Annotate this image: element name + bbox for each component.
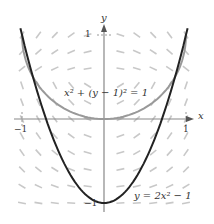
- slope-arrow: [21, 82, 24, 90]
- slope-arrow: [67, 185, 75, 187]
- x-axis-arrow-icon: [186, 116, 194, 122]
- slope-arrow: [36, 150, 41, 156]
- slope-arrow: [150, 167, 157, 171]
- slope-arrow: [52, 32, 58, 38]
- y-tick-label-neg1: −1: [84, 198, 97, 208]
- x-tick-label-pos1: 1: [183, 124, 189, 134]
- slope-arrow: [117, 68, 125, 69]
- slope-arrow: [84, 51, 92, 53]
- slope-arrow: [68, 33, 75, 38]
- slope-arrow: [117, 34, 125, 37]
- slope-arrow: [184, 149, 189, 156]
- slope-arrow: [117, 152, 125, 154]
- slope-arrow: [84, 134, 92, 137]
- slope-arrow: [51, 167, 58, 171]
- circle-equation-label: x² + (y − 1)² = 1: [64, 87, 148, 98]
- slope-arrow: [167, 133, 172, 140]
- slope-arrow: [150, 32, 156, 38]
- slope-arrow: [117, 100, 124, 104]
- x-tick-label-neg1: −1: [14, 124, 27, 134]
- parabola-equation-label: y = 2x² − 1: [134, 190, 192, 201]
- slope-arrow: [18, 202, 26, 204]
- slope-arrow: [35, 167, 41, 172]
- slope-arrow: [166, 202, 174, 203]
- slope-arrow: [134, 99, 140, 105]
- slope-arrow: [116, 186, 124, 187]
- slope-arrow: [35, 66, 42, 70]
- slope-arrow: [117, 51, 125, 53]
- slope-arrow: [134, 134, 140, 139]
- slope-arrow: [183, 184, 190, 188]
- slope-arrow: [36, 133, 41, 140]
- slope-arrow: [68, 134, 74, 139]
- slope-arrow: [19, 66, 25, 71]
- slope-arrow: [151, 82, 155, 89]
- slope-arrow: [149, 203, 157, 204]
- slope-arrow: [166, 185, 173, 188]
- slope-arrow: [68, 151, 75, 155]
- slope-arrow: [166, 66, 173, 70]
- slope-arrow: [52, 150, 58, 155]
- slope-arrow: [185, 99, 188, 106]
- slope-arrow: [35, 49, 41, 54]
- slope-arrow: [84, 186, 92, 187]
- slope-arrow: [51, 185, 59, 188]
- slope-arrow: [117, 134, 125, 137]
- slope-arrow: [117, 169, 125, 171]
- slope-arrow: [150, 50, 157, 54]
- slope-arrow: [35, 185, 42, 188]
- slope-arrow: [134, 33, 141, 38]
- slope-field-figure: y x 1 −1 1 −1 x² + (y − 1)² = 1 y = 2x² …: [0, 0, 214, 224]
- slope-arrow: [67, 203, 75, 204]
- y-tick-label-pos1: 1: [85, 29, 91, 39]
- slope-arrow: [185, 82, 188, 90]
- slope-arrow: [133, 185, 141, 187]
- slope-arrow: [167, 150, 172, 156]
- slope-arrow: [84, 100, 91, 104]
- slope-arrow: [20, 149, 25, 156]
- slope-arrow: [68, 99, 74, 105]
- slope-arrow: [149, 185, 157, 188]
- slope-arrow: [182, 202, 190, 204]
- slope-arrow: [133, 203, 141, 204]
- slope-arrow: [183, 66, 189, 71]
- slope-arrow: [21, 99, 24, 106]
- slope-arrow: [51, 203, 59, 204]
- slope-arrow: [84, 68, 92, 69]
- slope-arrow: [133, 151, 140, 155]
- slope-arrow: [167, 167, 173, 172]
- slope-arrow: [167, 32, 172, 38]
- slope-arrow: [53, 82, 57, 89]
- y-axis-arrow-icon: [101, 24, 107, 32]
- slope-arrow: [133, 50, 140, 53]
- slope-arrow: [67, 67, 75, 69]
- slope-arrow: [167, 49, 173, 54]
- y-axis-label: y: [101, 12, 107, 23]
- slope-arrow: [19, 184, 26, 188]
- slope-arrow: [150, 150, 156, 155]
- slope-arrow: [84, 169, 92, 171]
- slope-arrow: [183, 167, 189, 173]
- slope-arrow: [52, 50, 59, 54]
- slope-arrow: [84, 152, 92, 154]
- slope-arrow: [35, 202, 43, 203]
- slope-arrow: [36, 32, 41, 38]
- x-axis-label: x: [198, 110, 204, 121]
- slope-arrow: [133, 67, 141, 69]
- slope-arrow: [68, 50, 75, 53]
- slope-arrow: [150, 67, 157, 70]
- slope-arrow: [51, 67, 58, 70]
- slope-arrow: [19, 167, 25, 173]
